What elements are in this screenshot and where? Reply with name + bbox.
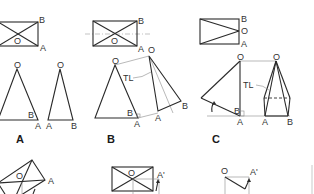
label-o: O: [273, 52, 280, 62]
lower-panel-c: O A': [221, 166, 258, 194]
label-b: B: [127, 108, 133, 118]
lower-panel-a: O A: [0, 160, 54, 194]
caption-c: C: [212, 133, 220, 145]
panel-c-plan: B O A: [200, 14, 248, 49]
panel-b: B O A O B A O A B TL B: [85, 16, 188, 145]
label-a: A: [40, 43, 46, 53]
label-a: A: [155, 113, 161, 123]
label-b: B: [39, 15, 45, 25]
label-o: O: [14, 36, 21, 46]
diagram-canvas: B O A O B A O A B A B O A: [0, 0, 314, 194]
label-a: A: [241, 39, 247, 49]
label-b: B: [71, 121, 77, 131]
label-a-prime: A': [250, 167, 258, 177]
caption-a: A: [16, 133, 24, 145]
label-o: O: [16, 171, 23, 181]
label-a: A: [237, 117, 243, 127]
label-b: B: [28, 110, 34, 120]
caption-b: B: [107, 133, 115, 145]
label-o: O: [14, 60, 21, 70]
label-a: A: [138, 44, 144, 54]
panel-a-elevation-1: O B A: [0, 60, 41, 131]
label-a: A: [35, 121, 41, 131]
label-b: B: [182, 101, 188, 111]
label-tl: TL: [123, 73, 134, 83]
label-a: A: [134, 119, 140, 129]
panel-b-elevation: O B A: [95, 56, 140, 129]
label-o: O: [148, 45, 155, 55]
label-b: B: [241, 14, 247, 24]
label-o: O: [237, 52, 244, 62]
label-o: O: [111, 36, 118, 46]
label-a: A: [46, 121, 52, 131]
label-a: A: [262, 117, 268, 127]
panel-a-elevation-2: O A B: [46, 60, 77, 131]
label-o: O: [128, 168, 135, 178]
label-a: A: [48, 176, 54, 186]
label-o: O: [112, 56, 119, 66]
lower-panel-b: O A': [112, 167, 165, 194]
label-a-prime: A': [157, 170, 165, 180]
label-b: B: [234, 106, 240, 116]
panel-a-plan: B O A: [0, 15, 46, 53]
panel-b-plan: B O A: [85, 16, 150, 54]
label-tl: TL: [243, 80, 254, 90]
label-o: O: [221, 166, 228, 176]
label-b: B: [287, 117, 293, 127]
label-b: B: [138, 16, 144, 26]
panel-a: B O A O B A O A B A: [0, 15, 77, 145]
label-o: O: [241, 26, 248, 36]
panel-c: B O A O B A O A B: [200, 14, 293, 145]
label-o: O: [57, 60, 64, 70]
